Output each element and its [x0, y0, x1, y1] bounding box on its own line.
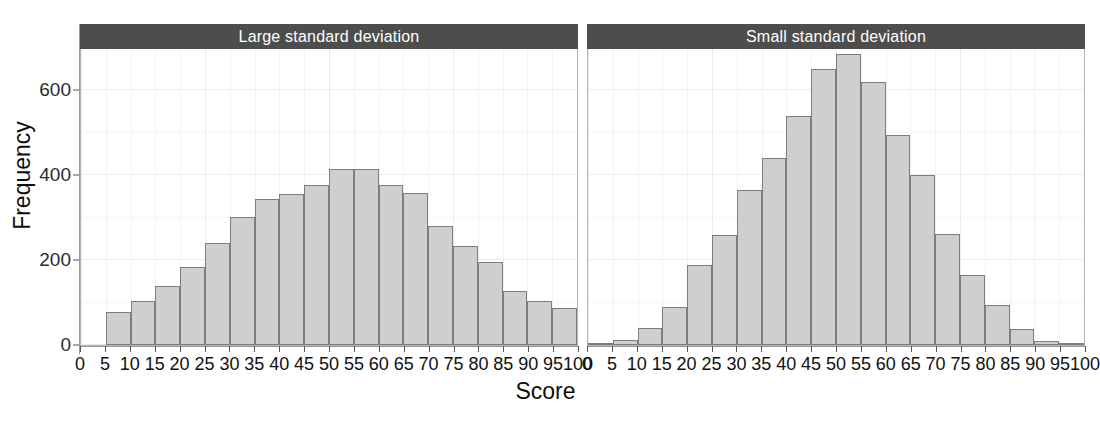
x-axis-tick-mark [80, 346, 81, 352]
histogram-bar [662, 307, 687, 345]
histogram-bar [638, 328, 663, 345]
histogram-bar [960, 275, 985, 345]
histogram-bar [503, 291, 528, 345]
panel-small-standard-deviation: Small standard deviation [587, 24, 1085, 346]
x-axis-tick-label: 45 [294, 354, 314, 375]
histogram-bar [687, 265, 712, 345]
x-axis-tick-mark [379, 346, 380, 352]
x-axis-tick-label: 5 [607, 354, 617, 375]
x-axis-tick-mark [553, 346, 554, 352]
x-axis-tick-label: 90 [518, 354, 538, 375]
x-axis-tick-mark [961, 346, 962, 352]
histogram-bar [205, 243, 230, 345]
histogram-bar [527, 301, 552, 345]
x-axis-tick-label: 100 [1070, 354, 1100, 375]
x-axis-tick-label: 65 [394, 354, 414, 375]
x-axis-tick-mark [1085, 346, 1086, 352]
x-axis-tick-label: 85 [493, 354, 513, 375]
x-axis-tick-label: 5 [100, 354, 110, 375]
x-axis-tick-mark [354, 346, 355, 352]
x-axis-tick-mark [662, 346, 663, 352]
histogram-bar [910, 175, 935, 345]
x-axis-tick-mark [911, 346, 912, 352]
x-axis-tick-mark [1060, 346, 1061, 352]
x-axis-tick-label: 25 [194, 354, 214, 375]
histogram-bar [428, 226, 453, 345]
x-axis-tick-mark [612, 346, 613, 352]
x-axis-tick-mark [454, 346, 455, 352]
x-axis-tick-label: 40 [269, 354, 289, 375]
x-axis-tick-label: 70 [419, 354, 439, 375]
facet-panels: Large standard deviation Small standard … [80, 24, 1085, 346]
x-axis-tick-label: 20 [677, 354, 697, 375]
x-axis-tick-label: 75 [950, 354, 970, 375]
x-axis-tick-label: 45 [801, 354, 821, 375]
x-axis-tick-label: 0 [75, 354, 85, 375]
bars-1 [588, 49, 1084, 345]
x-axis-tick-label: 15 [145, 354, 165, 375]
gridline-vertical [577, 49, 578, 345]
x-axis-tick-mark [1010, 346, 1011, 352]
histogram-bar [304, 185, 329, 345]
histogram-bar [811, 69, 836, 345]
histogram-bar [886, 135, 911, 345]
histogram-bar [354, 169, 379, 345]
x-axis-tick-mark [886, 346, 887, 352]
x-axis-tick-mark [637, 346, 638, 352]
x-axis-tick-label: 10 [627, 354, 647, 375]
histogram-bar [131, 301, 156, 345]
panel-strip-label-1: Small standard deviation [587, 24, 1085, 49]
histogram-bar [255, 199, 280, 345]
x-axis-tick-label: 50 [319, 354, 339, 375]
x-axis-tick-mark [503, 346, 504, 352]
x-axis-tick-mark [528, 346, 529, 352]
x-axis-tick-label: 30 [726, 354, 746, 375]
x-axis-tick-label: 20 [170, 354, 190, 375]
x-axis-tick-label: 70 [926, 354, 946, 375]
x-axis-tick-mark [105, 346, 106, 352]
x-axis-tick-mark [712, 346, 713, 352]
x-axis-tick-label: 85 [1000, 354, 1020, 375]
panel-strip-label-0: Large standard deviation [80, 24, 578, 49]
x-axis-tick-mark [130, 346, 131, 352]
x-axis-tick-mark [155, 346, 156, 352]
x-axis-tick-mark [404, 346, 405, 352]
x-axis-tick-mark [811, 346, 812, 352]
histogram-bar [453, 246, 478, 345]
x-axis-tick-mark [736, 346, 737, 352]
histogram-bar [230, 217, 255, 345]
x-axis-tick-mark [687, 346, 688, 352]
x-axis-tick-label: 75 [443, 354, 463, 375]
x-axis-tick-mark [861, 346, 862, 352]
x-axis-tick-mark [478, 346, 479, 352]
x-axis-tick-label: 80 [468, 354, 488, 375]
x-axis-tick-label: 90 [1025, 354, 1045, 375]
histogram-bar [935, 234, 960, 345]
histogram-bar [786, 116, 811, 345]
x-axes: 0510152025303540455055606570758085909510… [80, 346, 1085, 380]
x-axis-tick-mark [205, 346, 206, 352]
x-axis-tick-label: 95 [1050, 354, 1070, 375]
plot-area-1 [587, 49, 1085, 346]
x-axis-tick-mark [578, 346, 579, 352]
x-axis-tick-mark [985, 346, 986, 352]
bars-0 [81, 49, 577, 345]
panel-large-standard-deviation: Large standard deviation [80, 24, 578, 346]
x-axis-tick-label: 80 [975, 354, 995, 375]
x-axis-tick-mark [429, 346, 430, 352]
x-axis-tick-mark [254, 346, 255, 352]
histogram-bar [1010, 329, 1035, 345]
histogram-bar [329, 169, 354, 345]
histogram-bar [552, 308, 577, 345]
x-axis-tick-mark [229, 346, 230, 352]
y-axis: 0200400600 [40, 20, 80, 350]
x-axis-tick-mark [786, 346, 787, 352]
x-axis-tick-label: 95 [543, 354, 563, 375]
x-axis-tick-mark [936, 346, 937, 352]
x-axis-tick-label: 40 [776, 354, 796, 375]
x-axis-tick-mark [836, 346, 837, 352]
x-axis-tick-label: 55 [344, 354, 364, 375]
x-axis-tick-mark [279, 346, 280, 352]
x-axis-tick-mark [1035, 346, 1036, 352]
